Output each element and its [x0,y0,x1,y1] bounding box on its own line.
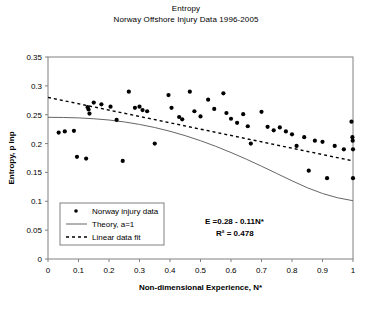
x-tick-label: 0.5 [195,266,207,275]
data-point [180,117,184,121]
data-point [333,144,337,148]
y-axis-title: Entropy, p lnp [7,131,16,184]
x-tick-label: 0.8 [286,266,298,275]
annotation-group: E =0.28 - 0.11N*R² = 0.478 [205,217,265,238]
data-point [224,111,228,115]
data-point [99,102,103,106]
equation-annotation: E =0.28 - 0.11N* [205,217,265,226]
x-tick-label: 1 [351,266,356,275]
data-point [75,155,79,159]
data-point [188,90,192,94]
data-point [349,120,353,124]
y-tick-group: 00.050.10.150.20.250.30.35Entropy, p lnp [7,53,48,264]
data-point [266,125,270,129]
y-tick-label: 0 [38,255,43,264]
data-point [229,117,233,121]
linear-fit-line [48,97,353,160]
data-points-group [57,90,356,181]
data-point [86,107,90,111]
data-point [108,105,112,109]
x-tick-label: 0.3 [134,266,146,275]
data-point [133,106,137,110]
data-point [72,129,76,133]
chart-container: Entropy Norway Offshore Injury Data 1996… [0,0,372,311]
data-point [241,112,245,116]
r-squared-annotation: R² = 0.478 [216,229,254,238]
data-point [57,131,61,135]
y-tick-label: 0.1 [31,197,43,206]
y-tick-label: 0.2 [31,140,43,149]
legend-box: Norway injury dataTheory, a=1Linear data… [60,203,164,245]
data-point [259,110,263,114]
data-point [198,114,202,118]
data-point [63,129,67,133]
data-point [169,106,173,110]
data-point [235,121,239,125]
data-point [153,141,157,145]
y-tick-label: 0.05 [26,226,42,235]
data-point [320,140,324,144]
data-point [284,129,288,133]
data-point [166,93,170,97]
x-tick-label: 0.7 [256,266,268,275]
data-point [115,118,119,122]
data-point [307,169,311,173]
y-tick-label: 0.3 [31,82,43,91]
data-point [294,144,298,148]
data-point [84,156,88,160]
theory-curve [48,117,353,200]
data-point [92,100,96,104]
data-point [302,135,306,139]
data-point [121,159,125,163]
data-point [351,139,355,143]
x-tick-label: 0.1 [73,266,85,275]
legend-label: Norway injury data [92,207,159,216]
data-point [351,147,355,151]
data-point [206,98,210,102]
legend-label: Theory, a=1 [92,220,135,229]
y-tick-label: 0.35 [26,53,42,62]
data-point [325,176,329,180]
data-point [351,176,355,180]
y-tick-label: 0.15 [26,168,42,177]
legend-label: Linear data fit [92,233,141,242]
data-point [192,109,196,113]
data-point [140,108,144,112]
x-tick-label: 0 [46,266,51,275]
x-tick-group: 00.10.20.30.40.50.60.70.80.91Non-dimensi… [46,259,356,292]
data-point [221,91,225,95]
x-tick-label: 0.9 [317,266,329,275]
data-point [278,125,282,129]
data-point [137,105,141,109]
data-point [313,139,317,143]
data-point [87,111,91,115]
data-point [272,128,276,132]
data-point [342,147,346,151]
x-tick-label: 0.4 [164,266,176,275]
plot-svg: 00.10.20.30.40.50.60.70.80.91Non-dimensi… [0,0,372,311]
legend-marker-diamond [74,209,78,213]
data-point [249,141,253,145]
data-point [145,109,149,113]
x-axis-title: Non-dimensional Experience, N* [139,283,263,292]
x-tick-label: 0.6 [225,266,237,275]
data-point [290,132,294,136]
data-point [127,90,131,94]
data-point [212,107,216,111]
x-tick-label: 0.2 [103,266,115,275]
y-tick-label: 0.25 [26,111,42,120]
data-point [246,124,250,128]
